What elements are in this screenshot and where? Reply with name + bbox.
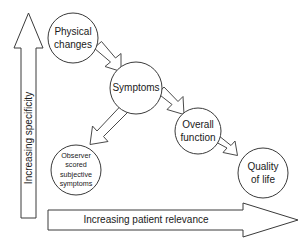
connector-symptoms-to-observer-scored xyxy=(90,106,128,145)
node-label-line-1: Observer xyxy=(61,151,91,160)
vertical-axis-label: Increasing specificity xyxy=(23,92,34,184)
horizontal-axis-arrow: Increasing patient relevance xyxy=(48,203,298,237)
block-arrow-shape xyxy=(94,42,121,72)
node-label-line-2: changes xyxy=(54,39,92,50)
node-label-line-2: scored xyxy=(65,160,87,169)
node-physical-changes[interactable]: Physical changes xyxy=(48,13,98,63)
node-label-line-1: Overall xyxy=(182,119,214,130)
node-label-line-1: Symptoms xyxy=(112,82,159,93)
node-observer-scored[interactable]: Observer scored subjective symptoms xyxy=(51,145,101,195)
node-symptoms[interactable]: Symptoms xyxy=(110,62,162,114)
connector-physical-changes-to-symptoms xyxy=(94,42,121,72)
node-label-line-4: symptoms xyxy=(60,179,93,188)
diagram-canvas: Increasing specificity Increasing patien… xyxy=(0,0,303,245)
concept-diagram: Increasing specificity Increasing patien… xyxy=(0,0,303,245)
node-overall-function[interactable]: Overall function xyxy=(175,108,221,154)
node-quality-of-life[interactable]: Quality of life xyxy=(238,148,288,198)
node-label-line-2: function xyxy=(180,132,215,143)
node-label-line-1: Quality xyxy=(247,161,278,172)
node-label-line-3: subjective xyxy=(60,170,92,179)
node-label-line-2: of life xyxy=(251,174,275,185)
vertical-axis-arrow: Increasing specificity xyxy=(14,13,43,218)
horizontal-axis-label: Increasing patient relevance xyxy=(83,214,209,225)
block-arrow-shape xyxy=(90,106,128,145)
node-label-line-1: Physical xyxy=(54,26,91,37)
